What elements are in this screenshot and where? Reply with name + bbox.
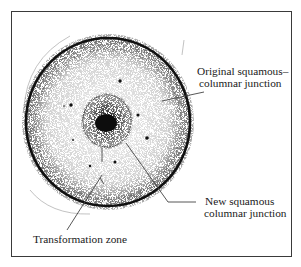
label-original-scj-line2: columnar junction bbox=[197, 77, 288, 89]
cervix-diagram bbox=[0, 0, 301, 267]
label-transformation-zone-text: Transformation zone bbox=[33, 233, 127, 245]
label-new-scj: New squamous columnar junction bbox=[204, 195, 287, 219]
label-original-scj: Original squamous– columnar junction bbox=[197, 65, 288, 89]
external-os bbox=[95, 114, 117, 132]
label-transformation-zone: Transformation zone bbox=[33, 233, 127, 245]
label-new-scj-line2: columnar junction bbox=[204, 207, 287, 219]
label-original-scj-line1: Original squamous– bbox=[197, 65, 288, 77]
label-new-scj-line1: New squamous bbox=[204, 195, 287, 207]
